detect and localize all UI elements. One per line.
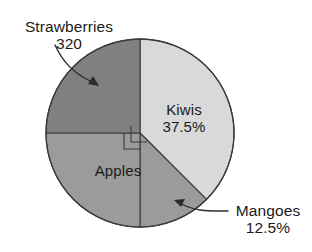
slice-label-kiwis-value: 37.5%: [146, 119, 222, 136]
slice-label-mangoes-name: Mangoes: [226, 202, 310, 219]
slice-label-kiwis: Kiwis 37.5%: [146, 102, 222, 136]
slice-label-mangoes-value: 12.5%: [226, 219, 310, 236]
slice-label-strawberries: Strawberries 320: [6, 18, 132, 53]
slice-label-kiwis-name: Kiwis: [146, 102, 222, 119]
pie-chart-figure: Strawberries 320 Kiwis 37.5% Apples Mang…: [0, 0, 312, 252]
pie-slice-strawberries[interactable]: [46, 39, 140, 133]
slice-label-strawberries-name: Strawberries: [6, 18, 132, 35]
slice-label-mangoes: Mangoes 12.5%: [226, 202, 310, 237]
slice-label-apples-name: Apples: [80, 163, 156, 180]
slice-label-strawberries-value: 320: [6, 35, 132, 52]
slice-label-apples: Apples: [80, 163, 156, 180]
pie-slice-apples[interactable]: [46, 133, 140, 227]
